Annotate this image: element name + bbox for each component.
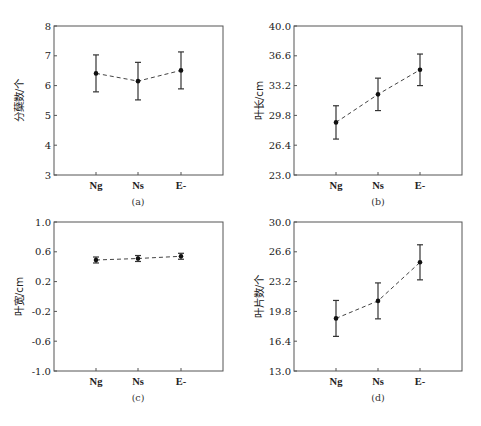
panel-caption: (d) [371,392,385,403]
data-point [334,120,339,125]
x-tick-label: Ns [372,376,384,387]
y-tick-label: 0.6 [35,246,51,257]
data-point [94,71,99,76]
y-tick-label: 26.6 [269,246,291,257]
y-tick-label: 5 [45,110,51,121]
data-point [179,68,184,73]
y-axis-label: 叶长/cm [253,81,265,121]
y-tick-label: 4 [45,140,51,151]
x-tick-label: Ng [330,376,344,387]
y-axis-label: 分蘖数/个 [13,78,25,123]
figure-canvas: 345678NgNsE-分蘖数/个(a) 23.026.429.833.236.… [0,0,481,426]
data-point [179,254,184,259]
y-tick-label: 36.6 [269,50,291,61]
y-tick-label: 19.8 [269,306,291,317]
y-tick-label: -1.0 [32,366,51,377]
y-tick-label: 23.0 [269,170,291,181]
data-point [136,79,141,84]
panel-caption: (a) [131,196,144,207]
y-tick-label: -0.2 [32,306,51,317]
data-point [94,258,99,263]
y-tick-label: 6 [45,80,51,91]
x-tick-label: E- [176,376,187,387]
panel-d: 13.016.419.823.226.630.0NgNsE-叶片数/个(d) [253,217,462,404]
panel-c: -1.0-0.6-0.20.20.61.0NgNsE-叶宽/cm(c) [13,217,223,404]
panel-caption: (b) [371,196,385,207]
y-tick-label: 0.2 [35,276,51,287]
y-tick-label: -0.6 [32,336,51,347]
y-tick-label: 7 [45,50,51,61]
data-point [376,92,381,97]
data-point [418,68,423,73]
x-tick-label: Ns [372,180,384,191]
y-tick-label: 13.0 [269,366,291,377]
x-tick-label: E- [415,376,426,387]
panel-caption: (c) [132,392,145,403]
x-tick-label: E- [176,180,187,191]
data-point [136,256,141,261]
panel-b: 23.026.429.833.236.640.0NgNsE-叶长/cm(b) [253,21,462,208]
y-tick-label: 26.4 [269,140,291,151]
y-axis-label: 叶宽/cm [13,277,25,317]
y-tick-label: 40.0 [269,21,291,32]
data-point [418,260,423,265]
panel-a: 345678NgNsE-分蘖数/个(a) [13,21,223,208]
x-tick-label: Ns [132,180,144,191]
y-tick-label: 1.0 [35,217,51,228]
y-tick-label: 3 [45,170,51,181]
x-tick-label: E- [415,180,426,191]
y-tick-label: 33.2 [269,80,291,91]
y-tick-label: 23.2 [269,276,291,287]
plot-frame [54,222,223,371]
y-tick-label: 29.8 [269,110,291,121]
y-axis-label: 叶片数/个 [253,274,265,319]
y-tick-label: 30.0 [269,217,291,228]
y-tick-label: 16.4 [269,336,291,347]
data-point [376,299,381,304]
data-point [334,316,339,321]
y-tick-label: 8 [45,21,51,32]
x-tick-label: Ng [90,376,104,387]
x-tick-label: Ng [330,180,344,191]
x-tick-label: Ng [90,180,104,191]
x-tick-label: Ns [132,376,144,387]
